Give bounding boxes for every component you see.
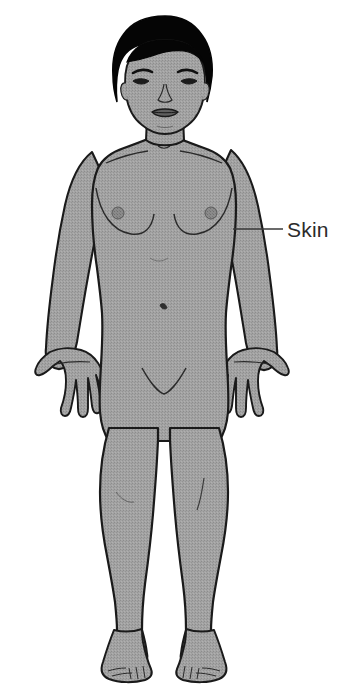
right-nipple <box>112 207 124 219</box>
skin-label: Skin <box>287 219 329 240</box>
torso-shape <box>92 118 236 441</box>
left-nipple <box>205 207 217 219</box>
anatomical-figure-diagram <box>0 0 351 699</box>
torso <box>92 118 236 441</box>
